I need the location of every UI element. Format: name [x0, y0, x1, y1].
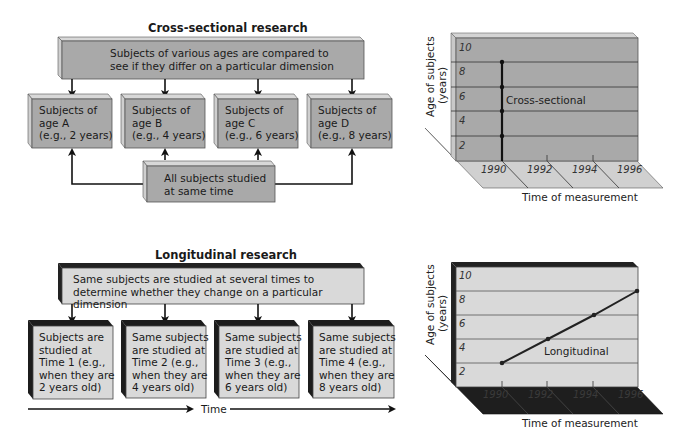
svg-text:1992: 1992	[527, 164, 552, 175]
svg-text:6: 6	[459, 91, 465, 102]
svg-text:1994: 1994	[572, 164, 597, 175]
cross-sectional-chart: 10 8 6 4 2 1990 1992 1994 1996 Cross-sec…	[424, 33, 663, 203]
long-top-box-text: Same subjects are studied at several tim…	[73, 273, 363, 311]
svg-text:4: 4	[459, 115, 465, 126]
cross-bottom-box-text: All subjects studied at same time	[164, 172, 266, 197]
longitudinal-title: Longitudinal research	[155, 248, 297, 262]
cross-group-d-label: Subjects of age D (e.g., 8 years)	[318, 104, 392, 142]
svg-text:10: 10	[459, 270, 472, 281]
svg-text:2: 2	[459, 140, 465, 151]
svg-text:Cross-sectional: Cross-sectional	[506, 94, 586, 106]
svg-text:1994: 1994	[573, 389, 598, 400]
svg-text:(years): (years)	[436, 295, 448, 332]
svg-text:1990: 1990	[483, 389, 508, 400]
svg-text:Time of measurement: Time of measurement	[521, 417, 638, 429]
svg-text:1990: 1990	[481, 164, 506, 175]
svg-text:Age of subjects: Age of subjects	[424, 36, 436, 117]
cross-top-box-text: Subjects of various ages are compared to…	[110, 47, 350, 72]
svg-text:8: 8	[459, 66, 465, 77]
cross-group-c-label: Subjects of age C (e.g., 6 years)	[225, 104, 299, 142]
svg-text:1996: 1996	[617, 164, 642, 175]
cross-group-b-label: Subjects of age B (e.g., 4 years)	[132, 104, 206, 142]
svg-text:(years): (years)	[436, 67, 448, 104]
long-time1-label: Subjects are studied at Time 1 (e.g., wh…	[39, 331, 114, 394]
svg-text:1996: 1996	[618, 389, 643, 400]
long-time4-label: Same subjects are studied at Time 4 (e.g…	[319, 331, 396, 394]
svg-text:4: 4	[459, 342, 465, 353]
svg-text:Longitudinal: Longitudinal	[544, 345, 609, 357]
time-axis-label: Time	[201, 403, 227, 416]
cross-group-a-label: Subjects of age A (e.g., 2 years)	[39, 104, 113, 142]
long-time2-label: Same subjects are studied at Time 2 (e.g…	[132, 331, 209, 394]
svg-text:Age of subjects: Age of subjects	[424, 264, 436, 345]
longitudinal-chart: 10 8 6 4 2 1990 1992 1994 1996 Longitudi…	[424, 262, 663, 429]
svg-text:1992: 1992	[528, 389, 553, 400]
svg-text:6: 6	[459, 318, 465, 329]
long-time3-label: Same subjects are studied at Time 3 (e.g…	[225, 331, 302, 394]
svg-text:10: 10	[459, 42, 472, 53]
svg-text:Time of measurement: Time of measurement	[521, 191, 638, 203]
svg-text:2: 2	[459, 366, 465, 377]
svg-text:8: 8	[459, 294, 465, 305]
cross-sectional-title: Cross-sectional research	[148, 21, 308, 35]
